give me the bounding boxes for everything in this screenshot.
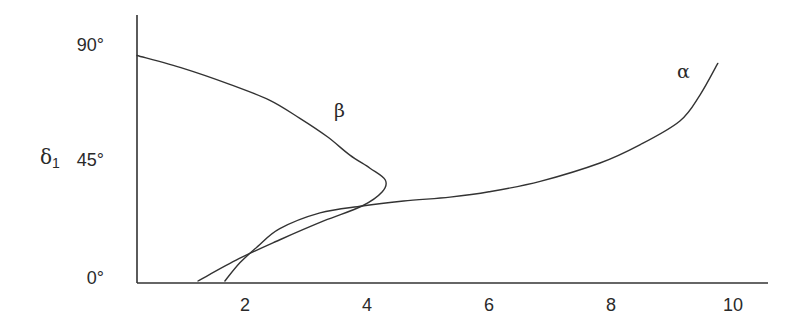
chart-canvas: δ1 0°45°90° 246810 β α [0, 0, 807, 329]
alpha-curve-label: α [677, 60, 690, 82]
y-tick-label: 90° [77, 35, 104, 55]
alpha-curve [225, 63, 718, 281]
x-tick-label: 6 [484, 295, 494, 315]
beta-curve [137, 56, 386, 282]
y-axis-label-main: δ [40, 145, 52, 169]
x-tick-label: 10 [723, 295, 743, 315]
y-axis-label: δ1 [40, 145, 60, 171]
beta-curve-label: β [334, 99, 345, 121]
y-tick-label: 45° [77, 150, 104, 170]
y-tick-label: 0° [87, 268, 104, 288]
x-tick-label: 2 [240, 295, 250, 315]
x-tick-label: 8 [606, 295, 616, 315]
x-tick-label: 4 [362, 295, 372, 315]
x-tick-labels: 246810 [240, 295, 743, 315]
y-axis-label-sub: 1 [52, 155, 60, 171]
y-tick-labels: 0°45°90° [77, 35, 104, 288]
